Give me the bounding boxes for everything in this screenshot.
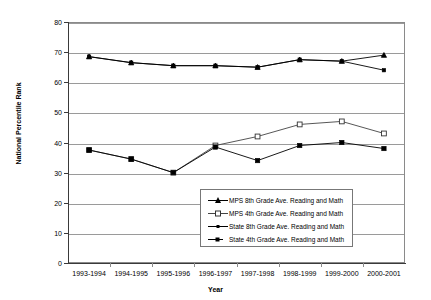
y-tick-label-30: 30 <box>54 170 62 177</box>
square-filled-marker-icon <box>207 234 229 245</box>
gridline-60 <box>69 83 404 84</box>
gridline-40 <box>69 144 404 145</box>
y-tick-label-70: 70 <box>54 49 62 56</box>
y-tick-label-20: 20 <box>54 200 62 207</box>
square-small-marker-icon <box>207 221 229 232</box>
x-tick-label-1994-1995: 1994-1995 <box>114 270 147 277</box>
y-tick-label-40: 40 <box>54 140 62 147</box>
x-tick-label-1999-2000: 1999-2000 <box>325 270 358 277</box>
y-tick-20 <box>64 203 68 204</box>
gridline-30 <box>69 174 404 175</box>
triangle-marker-icon <box>207 195 229 206</box>
chart-legend: MPS 8th Grade Ave. Reading and Math MPS … <box>200 189 353 247</box>
line-chart: 80 70 60 50 40 30 20 10 0 National Perce… <box>0 0 431 300</box>
x-tick-6 <box>321 263 322 267</box>
legend-item-mps-8th[interactable]: MPS 8th Grade Ave. Reading and Math <box>201 194 352 207</box>
legend-label: State 4th Grade Ave. Reading and Math <box>229 234 344 245</box>
gridline-80 <box>69 23 404 24</box>
y-tick-10 <box>64 233 68 234</box>
x-tick-label-1996-1997: 1996-1997 <box>199 270 232 277</box>
x-tick-label-2000-2001: 2000-2001 <box>367 270 400 277</box>
x-tick-label-1995-1996: 1995-1996 <box>157 270 190 277</box>
legend-item-state-4th[interactable]: State 4th Grade Ave. Reading and Math <box>201 233 352 246</box>
y-tick-70 <box>64 52 68 53</box>
y-tick-80 <box>64 22 68 23</box>
x-axis-title: Year <box>0 286 431 293</box>
y-tick-label-60: 60 <box>54 79 62 86</box>
y-tick-40 <box>64 143 68 144</box>
legend-label: MPS 4th Grade Ave. Reading and Math <box>229 208 343 219</box>
y-tick-label-0: 0 <box>58 260 62 267</box>
y-tick-30 <box>64 173 68 174</box>
gridline-70 <box>69 53 404 54</box>
x-tick-4 <box>237 263 238 267</box>
legend-label: State 8th Grade Ave. Reading and Math <box>229 221 344 232</box>
square-open-marker-icon <box>207 208 229 219</box>
x-tick-2 <box>152 263 153 267</box>
y-tick-60 <box>64 82 68 83</box>
legend-item-state-8th[interactable]: State 8th Grade Ave. Reading and Math <box>201 220 352 233</box>
y-axis <box>68 22 69 263</box>
y-tick-label-50: 50 <box>54 109 62 116</box>
x-tick-7 <box>363 263 364 267</box>
y-tick-50 <box>64 112 68 113</box>
legend-label: MPS 8th Grade Ave. Reading and Math <box>229 195 343 206</box>
x-tick-label-1997-1998: 1997-1998 <box>241 270 274 277</box>
y-tick-0 <box>64 263 68 264</box>
y-tick-label-80: 80 <box>54 19 62 26</box>
x-tick-1 <box>110 263 111 267</box>
x-tick-label-1998-1999: 1998-1999 <box>283 270 316 277</box>
y-tick-labels: 80 70 60 50 40 30 20 10 0 <box>40 0 62 300</box>
y-tick-label-10: 10 <box>54 230 62 237</box>
x-tick-5 <box>279 263 280 267</box>
x-tick-label-1993-1994: 1993-1994 <box>72 270 105 277</box>
y-axis-title: National Percentile Rank <box>15 54 22 194</box>
gridline-50 <box>69 113 404 114</box>
legend-item-mps-4th[interactable]: MPS 4th Grade Ave. Reading and Math <box>201 207 352 220</box>
x-tick-3 <box>194 263 195 267</box>
